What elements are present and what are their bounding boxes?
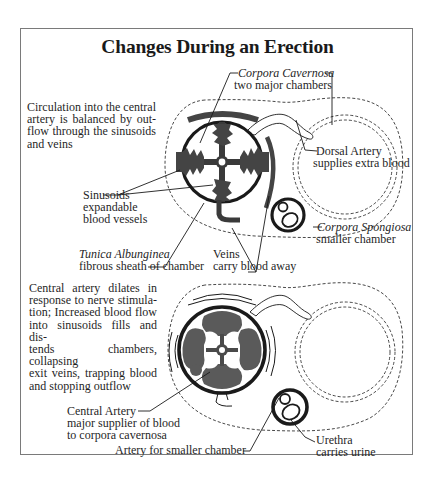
label-urethra-note: carries urine (316, 446, 376, 459)
top-leader-lines (103, 73, 332, 272)
label-corpora-spongiosa-note: smaller chamber (316, 233, 396, 246)
label-corpora-cavernosa-note: two major chambers (234, 79, 332, 92)
label-sinusoids-note-2: blood vessels (83, 213, 147, 226)
label-tunica-albunginea-note: fibrous sheath of chamber (79, 260, 204, 273)
label-dorsal-artery-note: supplies extra blood (313, 157, 410, 170)
bottom-cross-section (168, 283, 403, 431)
label-artery-smaller-chamber: Artery for smaller chamber (115, 444, 246, 457)
label-central-artery-note-2: to corpora cavernosa (67, 429, 167, 442)
label-veins-note: carry blood away (213, 260, 296, 273)
